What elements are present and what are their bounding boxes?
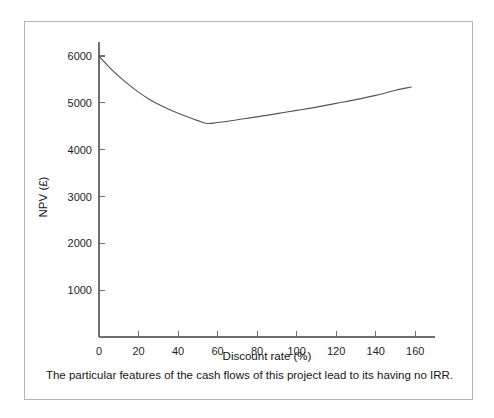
npv-discount-rate-chart: 100020003000400050006000 020406080100120… <box>25 22 474 362</box>
npv-curve <box>99 56 411 124</box>
x-tick-label: 0 <box>96 345 102 357</box>
chart-plot-area: 100020003000400050006000 020406080100120… <box>25 22 474 362</box>
x-tick-label: 160 <box>406 345 424 357</box>
figure-frame: 100020003000400050006000 020406080100120… <box>24 21 473 400</box>
x-tick-label: 20 <box>132 345 144 357</box>
x-axis-title: Discount rate (%) <box>223 350 312 362</box>
x-tick-label: 140 <box>367 345 385 357</box>
y-tick-label: 6000 <box>68 50 92 62</box>
y-tick-label: 5000 <box>68 97 92 109</box>
y-tick-label: 4000 <box>68 144 92 156</box>
x-tick-label: 40 <box>172 345 184 357</box>
y-axis-title: NPV (£) <box>37 176 49 217</box>
y-axis: 100020003000400050006000 <box>68 42 105 337</box>
y-tick-label: 2000 <box>68 237 92 249</box>
figure-caption: The particular features of the cash flow… <box>25 368 474 383</box>
x-tick-label: 120 <box>327 345 345 357</box>
y-tick-label: 3000 <box>68 191 92 203</box>
y-tick-label: 1000 <box>68 284 92 296</box>
